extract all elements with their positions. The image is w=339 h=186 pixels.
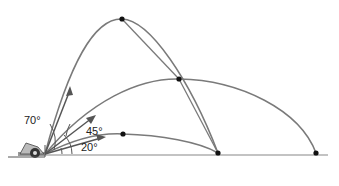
trajectory-20 [45, 134, 218, 154]
angle-label-45: 45° [86, 126, 103, 137]
trajectory-points [119, 16, 318, 155]
angle-label-70: 70° [24, 115, 41, 126]
launcher-icon [8, 143, 45, 158]
trajectory-diagram [0, 0, 339, 186]
angle-label-20: 20° [81, 142, 98, 153]
apex-line [122, 19, 179, 79]
